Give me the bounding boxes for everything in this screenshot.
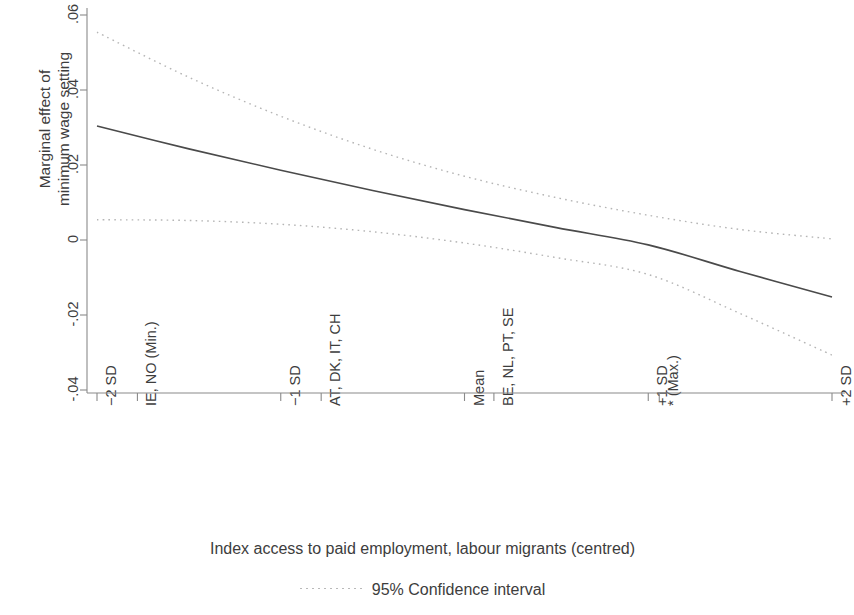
series-line-confidence-interval [97,220,832,355]
x-axis-title: Index access to paid employment, labour … [0,540,845,558]
series-line-confidence-interval [97,32,832,239]
legend-dotted-line-icon [300,587,362,590]
legend-label-ci: 95% Confidence interval [372,581,545,598]
legend: 95% Confidence interval [0,580,845,599]
series-line-marginal-effect [97,126,832,297]
axis-lines [87,8,845,393]
